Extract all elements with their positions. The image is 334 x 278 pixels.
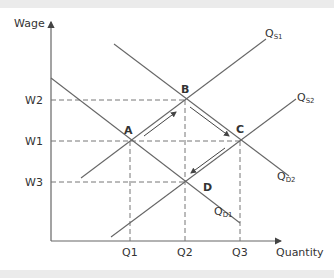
qd2-label: QD2 <box>277 170 296 184</box>
axes <box>51 22 281 241</box>
q1-tick-label: Q1 <box>122 246 138 259</box>
qd2-curve <box>114 44 289 176</box>
arrow-a-to-b <box>144 112 176 136</box>
x-axis-label: Quantity <box>276 246 324 259</box>
qd1-label: QD1 <box>214 205 233 219</box>
w2-tick-label: W2 <box>25 94 43 107</box>
w1-tick-label: W1 <box>25 135 43 148</box>
arrow-c-to-d <box>191 148 225 173</box>
w3-tick-label: W3 <box>25 176 43 189</box>
arrow-b-to-c <box>190 107 229 136</box>
q2-tick-label: Q2 <box>177 246 193 259</box>
qs2-curve <box>111 99 296 237</box>
qd1-curve <box>51 78 240 223</box>
guide-lines <box>51 100 240 241</box>
q3-tick-label: Q3 <box>232 246 248 259</box>
qs2-label: QS2 <box>297 91 315 105</box>
point-a-label: A <box>124 124 133 137</box>
qs1-label: QS1 <box>265 27 283 41</box>
point-b-label: B <box>181 83 189 96</box>
qs1-curve <box>81 39 266 178</box>
movement-arrows <box>144 107 229 173</box>
labor-market-diagram: Wage Quantity W2 W1 W3 Q1 Q2 Q3 A B C D … <box>0 0 334 278</box>
y-axis-label: Wage <box>14 17 45 30</box>
point-c-label: C <box>236 123 244 136</box>
point-d-label: D <box>203 181 212 194</box>
curves <box>51 39 296 237</box>
